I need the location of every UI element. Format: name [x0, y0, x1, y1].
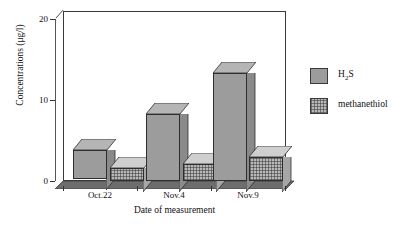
- bar-front-face: [73, 150, 107, 179]
- bar-front-face: [110, 168, 144, 181]
- x-tick-label-oct22: Oct.22: [70, 190, 130, 200]
- bar-front-face: [249, 157, 283, 181]
- legend-label-h2s: H2S: [338, 69, 354, 82]
- y-tick-label-0: 0: [26, 176, 48, 186]
- legend-swatch-methanethiol: [310, 98, 328, 114]
- x-tick-mark-1: [137, 186, 138, 191]
- y-axis-line: [55, 19, 56, 181]
- x-tick-label-nov9: Nov.9: [218, 190, 278, 200]
- x-tick-mark-3: [285, 186, 286, 191]
- y-tick-label-20: 20: [26, 14, 48, 24]
- bar-front-face: [183, 164, 217, 181]
- bar-nov9-h2s: [213, 62, 247, 181]
- bar-oct22-h2s: [73, 139, 107, 179]
- y-tick-label-10: 10: [26, 95, 48, 105]
- bar-side-face: [282, 157, 292, 192]
- x-tick-mark-0: [63, 186, 64, 191]
- bar-nov4-methanethiol: [183, 153, 217, 181]
- bar-oct22-methanethiol: [110, 157, 144, 181]
- plot-depth-edge: [55, 3, 71, 19]
- x-tick-mark-2: [211, 186, 212, 191]
- y-axis-title: Concentrations (μg/l): [15, 0, 25, 135]
- chart-figure: 20 10 0 Concentrations (μg/l): [0, 0, 403, 226]
- bar-nov4-h2s: [146, 103, 180, 181]
- bar-front-face: [213, 73, 247, 181]
- x-axis-title: Date of measurement: [63, 205, 286, 215]
- legend-label-methanethiol: methanethiol: [338, 99, 388, 109]
- x-tick-label-nov4: Nov.4: [144, 190, 204, 200]
- bar-front-face: [146, 114, 180, 181]
- y-tick-mark-10: [50, 100, 55, 101]
- y-tick-mark-20: [50, 19, 55, 20]
- bar-nov9-methanethiol: [249, 146, 283, 181]
- legend-swatch-h2s: [310, 68, 328, 84]
